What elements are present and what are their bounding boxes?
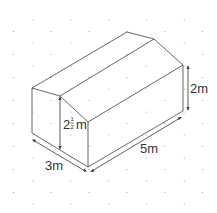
roof-ridge (60, 39, 154, 96)
roof-back-eave (32, 32, 127, 88)
back-gable-edge (127, 32, 183, 65)
house-prism (32, 32, 183, 167)
side-wall (88, 65, 183, 167)
length-label: 5m (140, 141, 158, 156)
width-label: 3m (45, 158, 63, 173)
peak-height-whole: 2 (63, 117, 70, 132)
peak-height-denominator: 2 (71, 124, 75, 130)
dimension-length (90, 117, 182, 172)
peak-height-unit: m (76, 117, 87, 132)
wall-height-label: 2m (190, 81, 208, 96)
isometric-diagram: 2 1 2 m 2m 3m 5m (0, 0, 217, 213)
peak-height-numerator: 1 (71, 116, 75, 122)
dimension-peak-height (59, 96, 62, 150)
